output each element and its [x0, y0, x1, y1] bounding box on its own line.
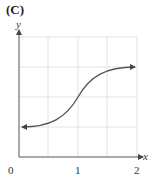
chart-plot: y x 0 1 2 — [0, 0, 149, 184]
x-tick-2: 2 — [134, 164, 140, 176]
x-tick-1: 1 — [75, 164, 81, 176]
x-tick-0: 0 — [8, 164, 14, 176]
sigmoid-curve — [22, 97, 78, 127]
y-axis-label: y — [15, 18, 21, 30]
x-axis-label: x — [142, 150, 148, 162]
